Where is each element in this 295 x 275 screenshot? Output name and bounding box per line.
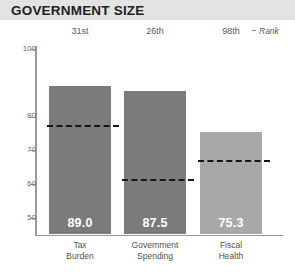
page-title: GOVERNMENT SIZE (11, 3, 145, 18)
bar-value-label: 89.0 (49, 216, 111, 230)
bar[interactable]: 87.5 (124, 91, 186, 234)
plot-area: 1008070605089.087.575.3 (0, 46, 295, 236)
rank-label-tax-burden: 31st (49, 26, 111, 36)
y-axis-tick-label: 70 (14, 145, 36, 154)
category-label-line: Health (186, 251, 276, 262)
bar[interactable]: 89.0 (49, 86, 111, 234)
y-axis-tick-label: 80 (14, 111, 36, 120)
category-labels: TaxBurdenGovernmentSpendingFiscalHealth (0, 240, 295, 270)
reference-line (122, 179, 194, 181)
bar[interactable]: 75.3 (200, 132, 262, 234)
dash-marker-icon (252, 30, 256, 31)
rank-label-government-spending: 26th (124, 26, 186, 36)
y-axis-line (35, 46, 37, 236)
x-axis-line (35, 235, 283, 237)
bar-value-label: 75.3 (200, 216, 262, 230)
y-axis-tick-label: 50 (14, 213, 36, 222)
bar-value-label: 87.5 (124, 216, 186, 230)
category-label: FiscalHealth (186, 240, 276, 261)
reference-line (198, 160, 270, 162)
rank-row: 31st 26th 98th Rank (0, 26, 295, 40)
y-axis-tick-label: 100 (14, 44, 36, 53)
chart-container: GOVERNMENT SIZE 31st 26th 98th Rank 1008… (0, 0, 295, 275)
reference-line (47, 125, 119, 127)
rank-legend: Rank (252, 26, 279, 36)
y-axis-tick-label: 60 (14, 179, 36, 188)
category-label-line: Fiscal (186, 240, 276, 251)
rank-legend-label: Rank (259, 26, 279, 36)
